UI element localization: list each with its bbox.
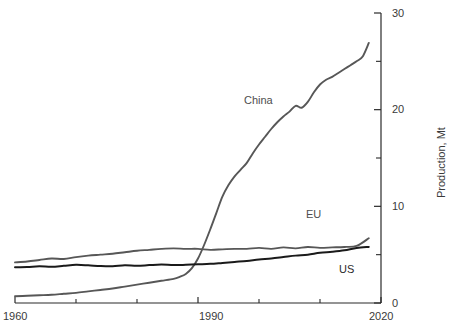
series-label-us: US	[339, 264, 354, 275]
x-tick-label-1990: 1990	[199, 311, 223, 322]
chart-plot-area	[0, 0, 451, 331]
series-line-us	[15, 247, 369, 267]
series-label-eu: EU	[306, 209, 321, 220]
series-label-china: China	[244, 95, 273, 106]
y-tick-label-30: 30	[392, 8, 404, 19]
series-line-eu	[15, 238, 369, 262]
y-axis-title: Production, Mt	[436, 127, 447, 198]
y-tick-label-20: 20	[392, 104, 404, 115]
production-line-chart: 1960 1990 2020 0 10 20 30 Production, Mt…	[0, 0, 451, 331]
data-series-group	[15, 43, 369, 296]
y-tick-label-10: 10	[392, 201, 404, 212]
x-axis-ticks	[15, 297, 381, 303]
x-tick-label-2020: 2020	[369, 311, 393, 322]
x-tick-label-1960: 1960	[3, 311, 27, 322]
y-axis-ticks	[374, 13, 381, 303]
y-tick-label-0: 0	[392, 298, 398, 309]
